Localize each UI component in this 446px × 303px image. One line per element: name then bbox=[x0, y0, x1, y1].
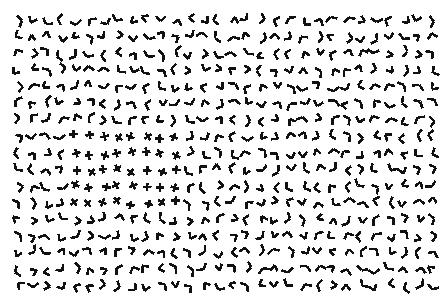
stimulus-canvas bbox=[0, 0, 446, 303]
texture-segregation-figure bbox=[0, 0, 446, 303]
